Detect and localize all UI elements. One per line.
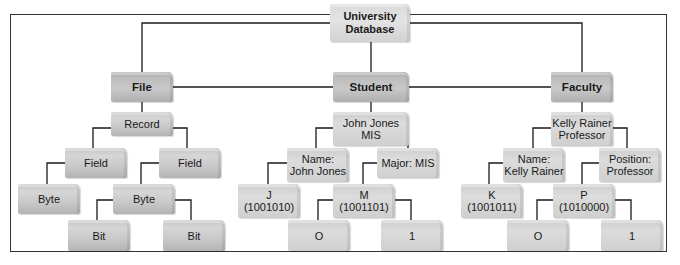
node-byte-k: K (1001011): [461, 184, 523, 218]
node-byte-p: P (1010000): [553, 184, 615, 218]
node-byte-m: M (1001101): [333, 184, 395, 218]
node-bit-left: Bit: [68, 220, 130, 251]
node-faculty-name-field: Name: Kelly Rainer: [503, 148, 565, 182]
node-faculty: Faculty: [551, 72, 613, 102]
node-field-right: Field: [159, 148, 221, 178]
node-bit-p0: O: [507, 220, 569, 251]
node-byte-j: J (1001010): [238, 184, 300, 218]
node-student-major-field: Major: MIS: [377, 148, 439, 178]
node-bit-m1: 1: [381, 220, 443, 251]
node-file: File: [111, 72, 173, 102]
node-bit-m0: O: [288, 220, 350, 251]
node-field-left: Field: [65, 148, 127, 178]
node-student: Student: [333, 72, 409, 102]
node-faculty-position-field: Position: Professor: [599, 148, 661, 182]
node-bit-p1: 1: [601, 220, 663, 251]
node-bit-right: Bit: [163, 220, 225, 251]
node-byte-mid: Byte: [113, 184, 175, 214]
node-student-name-field: Name: John Jones: [287, 148, 349, 182]
node-student-record: John Jones MIS: [333, 112, 409, 146]
node-record: Record: [111, 112, 173, 136]
node-university-database: University Database: [330, 4, 410, 42]
node-faculty-record: Kelly Rainer Professor: [551, 112, 613, 146]
node-byte-left: Byte: [18, 184, 80, 214]
